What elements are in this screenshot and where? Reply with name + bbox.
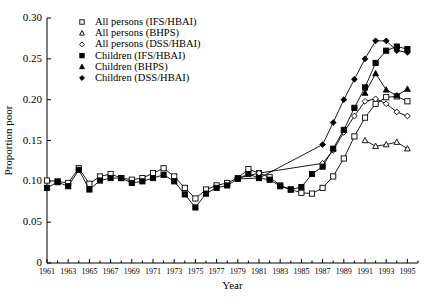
x-tick-label: 1991 <box>357 267 373 276</box>
marker-open-square <box>161 166 166 171</box>
marker-shape <box>193 205 198 210</box>
marker-shape <box>150 175 155 180</box>
marker-shape <box>373 70 379 75</box>
marker-shape <box>193 196 198 201</box>
marker-open-triangle <box>362 137 368 142</box>
marker-filled-diamond <box>320 142 326 148</box>
y-tick-label: 0.10 <box>23 174 43 186</box>
marker-filled-diamond <box>352 76 358 82</box>
marker-filled-square <box>80 53 84 57</box>
marker-shape <box>320 142 326 148</box>
marker-filled-square <box>108 175 113 180</box>
marker-filled-triangle <box>373 70 379 75</box>
marker-shape <box>80 20 84 24</box>
marker-filled-square <box>172 179 177 184</box>
marker-filled-square <box>373 60 378 65</box>
marker-shape <box>80 53 84 57</box>
marker-open-triangle <box>405 146 411 151</box>
marker-shape <box>330 120 336 126</box>
marker-shape <box>66 184 71 189</box>
marker-open-square <box>246 166 251 171</box>
marker-open-square <box>299 190 304 195</box>
series-4 <box>362 70 410 97</box>
marker-filled-square <box>44 185 49 190</box>
marker-shape <box>352 113 358 119</box>
marker-shape <box>172 179 177 184</box>
marker-filled-square <box>140 179 145 184</box>
legend-label: Children (DSS/HBAI) <box>95 72 190 84</box>
x-tick-label: 1963 <box>60 267 76 276</box>
marker-shape <box>203 191 208 196</box>
marker-filled-triangle <box>405 86 411 91</box>
x-tick-label: 1985 <box>293 267 309 276</box>
marker-shape <box>129 180 134 185</box>
marker-shape <box>405 146 411 151</box>
marker-shape <box>108 175 113 180</box>
marker-filled-square <box>299 184 304 189</box>
marker-shape <box>373 60 378 65</box>
y-tick-label: 0.05 <box>23 215 43 227</box>
legend-item[interactable]: Children (DSS/HBAI) <box>80 72 190 84</box>
marker-filled-square <box>384 48 389 53</box>
marker-open-square <box>172 174 177 179</box>
legend-label: Children (BHPS) <box>95 61 168 73</box>
marker-open-square <box>405 99 410 104</box>
legend-item[interactable]: All persons (BHPS) <box>80 27 180 39</box>
marker-open-square <box>80 20 84 24</box>
marker-shape <box>80 76 85 81</box>
marker-open-diamond <box>405 113 411 119</box>
marker-shape <box>299 190 304 195</box>
x-tick-label: 1981 <box>251 267 267 276</box>
marker-shape <box>80 64 85 69</box>
marker-shape <box>362 137 368 142</box>
marker-filled-square <box>341 127 346 132</box>
marker-shape <box>76 167 81 172</box>
marker-open-square <box>193 196 198 201</box>
marker-shape <box>182 192 187 197</box>
marker-shape <box>341 156 346 161</box>
x-tick-label: 1961 <box>39 267 55 276</box>
marker-shape <box>225 183 230 188</box>
marker-shape <box>352 105 357 110</box>
marker-shape <box>373 38 379 44</box>
marker-filled-square <box>246 171 251 176</box>
x-tick-label: 1989 <box>336 267 352 276</box>
marker-open-square <box>309 191 314 196</box>
marker-shape <box>278 184 283 189</box>
marker-shape <box>119 175 124 180</box>
marker-filled-square <box>182 192 187 197</box>
legend-label: Children (IFS/HBAI) <box>95 50 186 62</box>
marker-shape <box>97 178 102 183</box>
x-tick-label: 1967 <box>103 267 119 276</box>
y-tick-label: 0.30 <box>23 11 43 23</box>
marker-shape <box>331 146 336 151</box>
marker-filled-square <box>214 185 219 190</box>
y-tick-label: 0.25 <box>23 52 43 64</box>
marker-filled-diamond <box>80 76 85 81</box>
legend-label: All persons (BHPS) <box>95 27 180 39</box>
marker-shape <box>161 172 166 177</box>
marker-shape <box>44 178 49 183</box>
x-tick-label: 1973 <box>166 267 182 276</box>
x-tick-label: 1975 <box>187 267 203 276</box>
legend-item[interactable]: Children (BHPS) <box>80 61 169 73</box>
marker-shape <box>405 86 411 91</box>
marker-filled-square <box>278 184 283 189</box>
legend-item[interactable]: All persons (DSS/HBAI) <box>80 38 202 50</box>
marker-shape <box>331 174 336 179</box>
marker-open-triangle <box>80 31 85 36</box>
x-axis-ticks: 1961196319651967196919711973197519771979… <box>39 259 418 276</box>
marker-shape <box>140 179 145 184</box>
marker-shape <box>352 76 358 82</box>
legend-item[interactable]: All persons (IFS/HBAI) <box>80 16 197 28</box>
marker-open-square <box>150 171 155 176</box>
marker-open-square <box>341 156 346 161</box>
marker-shape <box>172 174 177 179</box>
marker-filled-square <box>309 171 314 176</box>
marker-filled-square <box>55 180 60 185</box>
marker-filled-square <box>87 187 92 192</box>
legend-item[interactable]: Children (IFS/HBAI) <box>80 50 186 62</box>
y-tick-label: 0.20 <box>23 93 43 105</box>
marker-filled-square <box>97 178 102 183</box>
marker-filled-triangle <box>80 64 85 69</box>
